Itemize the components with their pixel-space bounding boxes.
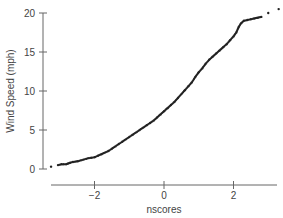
y-axis-title: Wind Speed (mph) [5, 49, 16, 132]
x-tick-label: 2 [231, 190, 237, 201]
y-tick-label: 5 [29, 125, 35, 136]
y-tick-label: 15 [24, 47, 36, 58]
data-points [50, 8, 280, 168]
normal-probability-plot: 05101520 −202 nscores Wind Speed (mph) [0, 0, 283, 218]
x-axis-title: nscores [146, 204, 181, 215]
data-point [267, 12, 269, 14]
y-axis: 05101520 [24, 8, 47, 175]
y-tick-label: 20 [24, 8, 36, 19]
data-point [63, 163, 65, 165]
x-tick-label: 0 [161, 190, 167, 201]
data-point [277, 8, 279, 10]
x-tick-label: −2 [89, 190, 101, 201]
data-point [50, 165, 52, 167]
data-point [260, 16, 262, 18]
y-tick-label: 10 [24, 86, 36, 97]
x-axis: −202 [51, 181, 277, 201]
y-tick-label: 0 [29, 164, 35, 175]
